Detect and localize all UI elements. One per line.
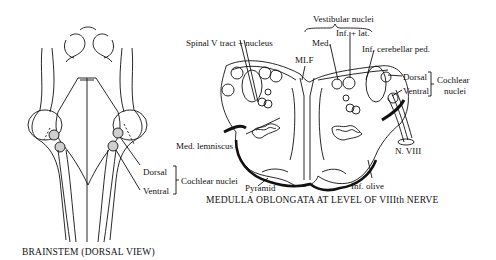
pyramid-label: Pyramid [245, 183, 276, 193]
cochlear-label-right: Cochlear [437, 75, 469, 85]
dorsal-label-right: Dorsal [403, 72, 427, 82]
right-figure-caption: MEDULLA OBLONGATA AT LEVEL OF VIIIth NER… [206, 195, 439, 205]
inf-cerebellar-ped-label: Inf. cerebellar ped. [362, 44, 430, 54]
med-label: Med. [312, 38, 331, 48]
med-lemniscus-label: Med. lemniscus [176, 141, 233, 151]
ventral-label-right: Ventral [403, 86, 429, 96]
vestibular-nuclei-label: Vestibular nuclei [313, 14, 374, 24]
mlf-label: MLF [295, 55, 314, 65]
inf-olive-label: Inf. olive [351, 181, 384, 191]
inf-lat-label: Inf. + lat. [336, 28, 370, 38]
n-viii-label: N. VIII [395, 146, 421, 156]
spinal-v-tract-label: Spinal V tract + nucleus [186, 38, 273, 48]
nuclei-label-right: nuclei [444, 86, 466, 96]
